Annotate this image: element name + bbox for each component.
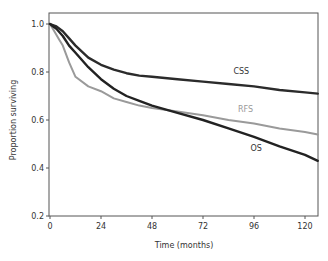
- y-axis-title: Proportion surviving: [9, 80, 18, 160]
- x-tick-label: 72: [198, 222, 208, 231]
- x-tick-label: 96: [249, 222, 259, 231]
- series-label-css: CSS: [233, 67, 249, 76]
- series-labels: CSSRFSOS: [233, 67, 261, 153]
- chart-canvas: 0.20.40.60.81.0 024487296120 CSSRFSOS Ti…: [0, 0, 328, 261]
- survival-chart: 0.20.40.60.81.0 024487296120 CSSRFSOS Ti…: [0, 0, 328, 261]
- series-line-css: [50, 24, 318, 94]
- x-tick-label: 0: [47, 222, 52, 231]
- x-tick-label: 120: [297, 222, 312, 231]
- y-tick-label: 0.2: [31, 212, 44, 221]
- x-axis-ticks: 024487296120: [47, 216, 312, 231]
- series-line-os: [50, 24, 318, 161]
- series-label-os: OS: [250, 144, 261, 153]
- x-tick-label: 24: [96, 222, 106, 231]
- y-tick-label: 0.4: [31, 164, 44, 173]
- y-tick-label: 0.6: [31, 116, 44, 125]
- series-label-rfs: RFS: [238, 105, 253, 114]
- x-tick-label: 48: [147, 222, 157, 231]
- y-axis-ticks: 0.20.40.60.81.0: [31, 20, 49, 221]
- series-lines: [50, 24, 318, 161]
- y-tick-label: 1.0: [31, 20, 44, 29]
- y-tick-label: 0.8: [31, 68, 44, 77]
- x-axis-title: Time (months): [154, 241, 214, 250]
